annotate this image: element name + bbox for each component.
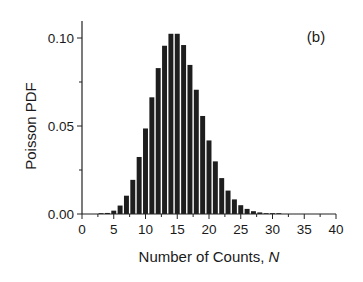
y-tick-label: 0.00: [48, 207, 74, 222]
bar: [238, 205, 243, 214]
x-tick-label: 20: [201, 222, 216, 237]
panel-label: (b): [307, 28, 325, 45]
bar: [162, 46, 167, 214]
bar: [118, 206, 123, 214]
bar: [207, 140, 212, 214]
bar: [194, 90, 199, 214]
x-tick-label: 25: [233, 222, 248, 237]
bar: [143, 128, 148, 214]
x-tick-label: 40: [328, 222, 343, 237]
x-tick-label: 30: [265, 222, 280, 237]
bar: [181, 45, 186, 214]
y-tick-label: 0.05: [48, 119, 74, 134]
poisson-pdf-chart: 05101520253035400.000.050.10 Number of C…: [0, 0, 363, 282]
bar: [226, 191, 231, 214]
bar: [245, 209, 250, 214]
bar: [156, 68, 161, 214]
bar: [124, 196, 129, 214]
bar: [168, 34, 173, 214]
x-tick-label: 15: [170, 222, 185, 237]
x-axis-title: Number of Counts, N: [139, 248, 280, 265]
x-tick-label: 5: [110, 222, 118, 237]
bar: [219, 178, 224, 214]
bar: [130, 180, 135, 214]
x-tick-label: 10: [138, 222, 153, 237]
y-tick-label: 0.10: [48, 31, 74, 46]
x-tick-label: 35: [297, 222, 312, 237]
bar: [213, 161, 218, 214]
bar: [232, 199, 237, 214]
bar: [187, 65, 192, 214]
y-axis-title: Poisson PDF: [22, 82, 39, 170]
bar-series: [99, 34, 282, 214]
bar: [137, 157, 142, 214]
bar: [149, 97, 154, 214]
bar: [200, 116, 205, 214]
bar: [175, 34, 180, 214]
x-tick-label: 0: [78, 222, 86, 237]
